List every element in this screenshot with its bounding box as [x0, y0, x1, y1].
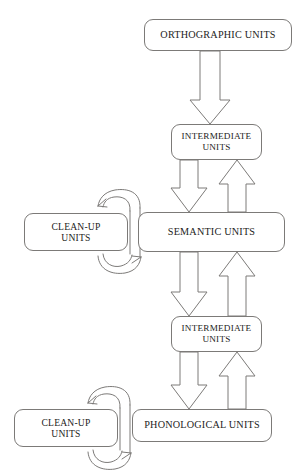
- curve-cleanup-lower-to-phonological-inner: [93, 450, 122, 463]
- node-semantic-units-label: SEMANTIC UNITS: [164, 226, 259, 238]
- node-intermediate-units-upper: INTERMEDIATE UNITS: [171, 124, 262, 160]
- arrow-semantic-to-intermediate-lower: [171, 252, 207, 316]
- arrow-phonological-to-intermediate-lower: [219, 352, 255, 409]
- arrow-orthographic-to-intermediate-upper: [190, 51, 230, 124]
- arrow-intermediate-upper-to-semantic: [171, 160, 207, 212]
- arrow-semantic-to-intermediate-upper: [219, 160, 255, 212]
- node-phonological-units-label: PHONOLOGICAL UNITS: [140, 419, 264, 431]
- node-orthographic-units: ORTHOGRAPHIC UNITS: [144, 19, 292, 51]
- arrow-intermediate-lower-to-semantic: [219, 252, 255, 316]
- node-clean-up-units-lower: CLEAN-UP UNITS: [14, 409, 118, 447]
- node-orthographic-units-label: ORTHOGRAPHIC UNITS: [156, 29, 279, 41]
- node-clean-up-units-lower-label: CLEAN-UP UNITS: [37, 417, 94, 440]
- node-clean-up-units-upper-label: CLEAN-UP UNITS: [47, 221, 104, 244]
- diagram-canvas: ORTHOGRAPHIC UNITS INTERMEDIATE UNITS SE…: [0, 0, 300, 474]
- node-semantic-units: SEMANTIC UNITS: [138, 212, 285, 252]
- node-intermediate-units-lower: INTERMEDIATE UNITS: [171, 316, 262, 352]
- curve-semantic-to-cleanup-upper-inner: [103, 197, 130, 211]
- node-intermediate-units-upper-label: INTERMEDIATE UNITS: [178, 131, 256, 153]
- node-clean-up-units-upper: CLEAN-UP UNITS: [24, 213, 128, 251]
- node-phonological-units: PHONOLOGICAL UNITS: [132, 409, 272, 442]
- curve-cleanup-upper-to-semantic-inner: [103, 254, 132, 267]
- curve-phonological-to-cleanup-lower: [88, 387, 130, 405]
- curve-phonological-to-cleanup-lower-inner: [93, 394, 120, 408]
- curve-semantic-to-cleanup-upper: [98, 190, 140, 208]
- node-intermediate-units-lower-label: INTERMEDIATE UNITS: [178, 323, 256, 345]
- arrow-intermediate-lower-to-phonological: [171, 352, 207, 409]
